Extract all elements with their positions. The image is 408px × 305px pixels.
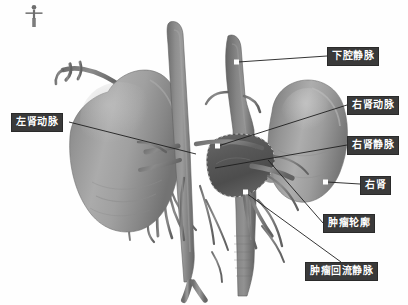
medical-render-viewport: 下腔静脉 左肾动脉 右肾动脉 右肾静脉 右肾 肿瘤轮廓 肿瘤回流静脉 bbox=[0, 0, 408, 305]
label-tumor-drainage-vein[interactable]: 肿瘤回流静脉 bbox=[305, 262, 378, 281]
label-right-kidney[interactable]: 右肾 bbox=[360, 176, 391, 195]
label-tumor-outline[interactable]: 肿瘤轮廓 bbox=[323, 214, 375, 233]
label-right-renal-artery[interactable]: 右肾动脉 bbox=[347, 96, 399, 115]
right-kidney-mesh bbox=[259, 80, 347, 202]
marker-right-kidney bbox=[323, 180, 328, 185]
label-left-renal-artery[interactable]: 左肾动脉 bbox=[11, 113, 63, 132]
label-inferior-vena-cava[interactable]: 下腔静脉 bbox=[327, 47, 379, 66]
marker-ivc bbox=[234, 60, 239, 65]
marker-aorta-mid bbox=[215, 144, 220, 149]
marker-tumor bbox=[243, 190, 248, 195]
label-right-renal-vein[interactable]: 右肾静脉 bbox=[347, 136, 399, 155]
human-body-orientation-icon bbox=[24, 4, 44, 28]
leader-ivc bbox=[238, 56, 327, 62]
